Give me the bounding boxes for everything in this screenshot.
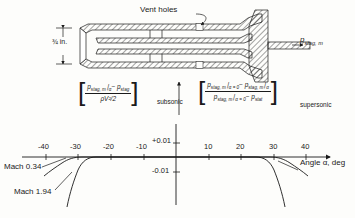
xtick-label-1: -30 [70, 142, 81, 151]
sup-num-pb-sub: stag, m [248, 85, 263, 90]
left-bracket-open: [ [78, 77, 85, 107]
supersonic-denominator: pstag, m∣α = 0− pstat [205, 92, 271, 102]
sub-num-p-sub: stag, m [91, 87, 106, 92]
sub-num-minus: − p [111, 83, 120, 90]
angle-axis-leader [278, 161, 298, 170]
supersonic-regime-label: supersonic [300, 101, 331, 108]
right-bracket-open: [ [198, 76, 205, 106]
vent-holes-label: Vent holes [140, 6, 177, 14]
sup-den-pb-sub: stat [255, 97, 262, 102]
xtick-label-2: -20 [103, 142, 114, 151]
sup-den-pb: − p [246, 93, 255, 100]
ytick-label-negative: -0.01 [152, 166, 169, 175]
series-label-mach-1-94: Mach 1.94 [14, 188, 51, 196]
figure-canvas [0, 0, 355, 218]
supersonic-numerator: pstag, m∣α = 0− pstag, m∣α [205, 81, 271, 92]
subsonic-formula: [pstag, m∣α− pstagρV²/2] [78, 77, 138, 108]
mach-1-94-leader [55, 172, 72, 190]
sub-num-p2-sub: stag [121, 87, 130, 92]
chart-axes [22, 124, 330, 205]
sup-num-bar-a-sub: α = 0 [229, 85, 239, 90]
subsonic-regime-label: subsonic [157, 98, 183, 105]
right-bracket-close: ] [271, 76, 278, 106]
probe-upper-wall [80, 14, 262, 33]
probe-flare-block [249, 10, 268, 82]
xtick-label-7: 40 [301, 142, 309, 151]
xtick-label-5: 20 [236, 142, 244, 151]
supersonic-fraction: pstag, m∣α = 0− pstag, m∣αpstag, m∣α = 0… [205, 81, 271, 103]
sup-num-pb: − p [239, 81, 248, 88]
subsonic-numerator: pstag, m∣α− pstag [85, 83, 131, 94]
left-bracket-close: ] [131, 77, 138, 107]
probe-inner-lower-tube [96, 49, 252, 58]
outlet-pressure-subscript: stag, m [304, 40, 322, 46]
xtick-label-0: -40 [38, 142, 49, 151]
probe-nose-flange [80, 28, 86, 64]
supersonic-formula: [pstag, m∣α = 0− pstag, m∣αpstag, m∣α = … [198, 76, 278, 107]
xtick-label-4: 10 [204, 142, 212, 151]
sup-num-pa-sub: stag, m [211, 85, 226, 90]
series-label-mach-0-34: Mach 0.34 [4, 163, 41, 171]
subsonic-fraction: pstag, m∣α− pstagρV²/2 [85, 83, 131, 102]
probe-cross-section [80, 10, 310, 82]
vent-hole-lower [196, 62, 203, 69]
probe-diameter-label: ¾ in. [52, 38, 67, 45]
subsonic-denominator: ρV²/2 [85, 94, 131, 102]
sup-num-bar-b-sub: α [266, 85, 269, 90]
xtick-label-3: -10 [136, 142, 147, 151]
ytick-label-positive: +0.01 [152, 136, 171, 145]
sup-den-pa-sub: stag, m [217, 97, 232, 102]
curve-mach-1-94-left [67, 157, 176, 207]
curve-mach-0-34-right [176, 157, 308, 176]
sup-den-bar-sub: α = 0 [235, 97, 245, 102]
probe-inner-upper-tube [96, 34, 252, 43]
x-axis-title: Angle α, deg [300, 159, 345, 167]
diameter-dimension [56, 28, 72, 64]
curve-mach-1-94-right [176, 157, 285, 207]
xtick-label-6: 30 [269, 142, 277, 151]
outlet-pressure-label: pstag, m [300, 36, 323, 46]
